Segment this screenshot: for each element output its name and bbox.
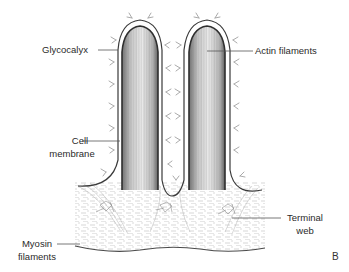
cell-membrane-label-line2: membrane [44,147,100,160]
terminal-web-label-line2: web [282,224,328,237]
cell-membrane-outline [78,20,262,196]
actin-filaments-label: Actin filaments [255,44,317,57]
glycocalyx-label: Glycocalyx [42,43,88,56]
myosin-label-line1: Myosin [14,237,60,250]
terminal-web-label: Terminal web [282,211,328,237]
cell-membrane-label-line1: Cell [44,134,100,147]
myosin-label-line2: filaments [14,250,60,263]
cell-membrane-label: Cell membrane [44,134,100,160]
terminal-web-region [75,182,265,252]
panel-letter: B [332,251,339,262]
terminal-web-label-line1: Terminal [282,211,328,224]
microvillus-left [122,26,158,190]
myosin-filaments-label: Myosin filaments [14,237,60,263]
